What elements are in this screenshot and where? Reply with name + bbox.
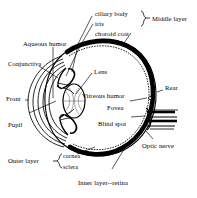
fovea-marker (149, 97, 152, 100)
pupil-edge-upper (57, 86, 62, 89)
iris-lower-flap (60, 115, 68, 135)
label-rear: Rear (165, 85, 178, 92)
label-choroid-coat: choroid coat (95, 31, 129, 38)
label-aqueous-humor: Aqueous humor (23, 41, 67, 48)
leader-rear (157, 90, 163, 92)
leader-fovea (130, 98, 147, 101)
label-pupil: Pupil (8, 122, 22, 129)
iris-root-lower (60, 118, 70, 120)
label-optic-nerve: Optic nerve (142, 143, 174, 150)
label-blind-spot: Blind spot (98, 121, 126, 128)
label-ciliary-body: ciliary body (95, 11, 128, 18)
fovea-dot (149, 97, 152, 100)
iris-ciliary-body (58, 68, 77, 135)
label-cornea: cornea (63, 153, 80, 159)
anterior-chamber-curve (49, 68, 68, 135)
eye-anatomy-diagram: ciliary body iris choroid coat Middle la… (0, 0, 197, 198)
optic-nerve-structure (146, 108, 178, 130)
label-sclera: sclera (63, 164, 78, 170)
label-inner-layer-retina: Inner layer--retina (78, 180, 128, 187)
lens-structure (63, 84, 85, 118)
label-middle-layer: Middle layer (152, 16, 187, 23)
cornea-conjunctiva-layers (28, 56, 68, 147)
label-conjunctiva: Conjunctiva (8, 61, 41, 68)
label-lens: Lens (94, 69, 107, 76)
label-iris: iris (95, 21, 104, 28)
outer-layer-brace (53, 154, 62, 168)
leader-blind-spot (131, 116, 145, 117)
leader-optic-nerve (145, 130, 153, 139)
label-vitreous-humor: Vitreous humor (82, 93, 125, 100)
label-fovea: Fovea (107, 105, 124, 112)
iris-root-upper (58, 83, 69, 85)
middle-layer-brace (141, 11, 150, 26)
label-front: Front (6, 96, 21, 103)
leader-lens (76, 73, 92, 94)
label-outer-layer: Outer layer (8, 158, 39, 165)
